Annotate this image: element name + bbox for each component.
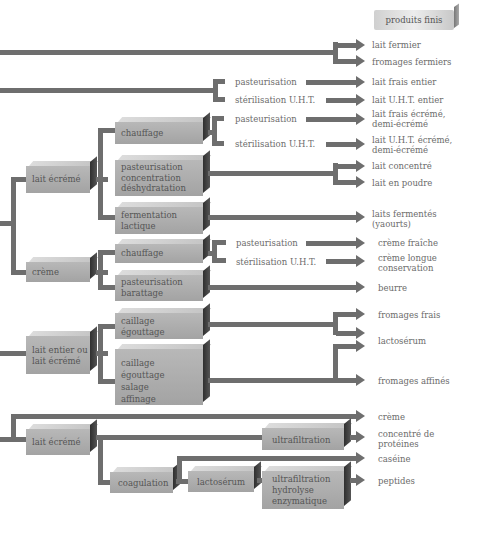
box-caillage-egouttage: caillage égouttage: [115, 313, 203, 339]
connector-line: [212, 258, 226, 263]
connector-line: [212, 240, 226, 245]
box-coagulation: coagulation: [110, 472, 173, 493]
product-creme: crème: [378, 412, 405, 422]
product-lait-uht-entier: lait U.H.T. entier: [372, 95, 443, 105]
connector-line: [98, 324, 116, 329]
product-lait-uht-ecreme: lait U.H.T. écrémé, demi-écrémé: [372, 135, 452, 155]
product-beurre: beurre: [378, 283, 407, 293]
product-laits-fermentes: laits fermentés (yaourts): [372, 209, 437, 229]
product-lait-fermier: lait fermier: [372, 40, 421, 50]
process-sterilisation: stérilisation U.H.T.: [236, 257, 316, 267]
box-chauffage: chauffage: [115, 244, 203, 263]
box-caillage-affinage: caillage égouttage salage affinage: [115, 349, 203, 405]
box-lait-ecreme: lait écrémé: [26, 429, 90, 455]
product-creme-longue: crème longue conservation: [378, 253, 437, 273]
connector-line: [208, 215, 356, 220]
connector-line: [0, 351, 27, 356]
product-lait-en-poudre: lait en poudre: [372, 178, 432, 188]
box-lait-ecreme: lait écrémé: [26, 166, 90, 193]
box-fermentation-lactique: fermentation lactique: [115, 207, 203, 234]
connector-line: [177, 456, 356, 461]
box-pasteurisation-barattage: pasteurisation barattage: [115, 275, 203, 301]
connector-line: [98, 250, 103, 290]
connector-line: [208, 285, 356, 290]
connector-line: [0, 50, 336, 55]
product-lait-frais-entier: lait frais entier: [372, 77, 436, 87]
product-lait-frais-ecreme: lait frais écrémé, demi-écrémé: [372, 109, 445, 129]
product-creme-fraiche: crème fraîche: [378, 238, 438, 248]
process-sterilisation: stérilisation U.H.T.: [235, 139, 315, 149]
box-pasteurisation-concentration: pasteurisation concentration déshydratat…: [115, 160, 203, 196]
connector-line: [98, 324, 103, 384]
box-creme: crème: [26, 262, 90, 282]
connector-line: [98, 250, 116, 255]
connector-line: [98, 128, 103, 220]
connector-line: [212, 116, 224, 121]
product-concentre-proteines: concentré de protéines: [378, 429, 434, 449]
box-lactoserum: lactosérum: [188, 471, 254, 492]
connector-line: [98, 379, 116, 384]
connector-line: [208, 171, 336, 176]
product-lactoserum: lactosérum: [378, 336, 426, 346]
connector-line: [11, 177, 16, 275]
process-pasteurisation: pasteurisation: [235, 77, 297, 87]
box-chauffage: chauffage: [115, 122, 203, 144]
product-caseine: caséine: [378, 454, 410, 464]
product-fromages-frais: fromages frais: [378, 310, 440, 320]
connector-line: [213, 97, 225, 102]
connector-line: [96, 435, 264, 440]
connector-line: [212, 141, 224, 146]
box-ultrafiltration-hydrolyse: ultrafiltration hydrolyse enzymatique: [262, 471, 344, 509]
connector-line: [0, 88, 216, 93]
product-peptides: peptides: [378, 476, 415, 486]
connector-line: [98, 437, 103, 485]
produits-finis-label: produits finis: [374, 15, 454, 25]
connector-line: [98, 128, 116, 133]
connector-line: [213, 79, 225, 84]
connector-line: [208, 322, 336, 327]
produits-finis-header: produits finis: [374, 10, 454, 30]
connector-line: [11, 414, 356, 419]
connector-line: [11, 177, 27, 182]
box-ultrafiltration: ultrafiltration: [262, 428, 344, 450]
process-sterilisation: stérilisation U.H.T.: [235, 95, 315, 105]
process-pasteurisation: pasteurisation: [235, 114, 297, 124]
product-fromages-fermiers: fromages fermiers: [372, 57, 451, 67]
product-lait-concentre: lait concentré: [372, 161, 432, 171]
connector-line: [333, 344, 338, 383]
connector-line: [98, 285, 116, 290]
product-fromages-affines: fromages affinés: [378, 376, 450, 386]
connector-line: [11, 270, 27, 275]
box-lait-entier-ou-ecreme: lait entier ou lait écrémé: [26, 336, 90, 374]
process-pasteurisation: pasteurisation: [236, 238, 298, 248]
connector-line: [98, 215, 116, 220]
